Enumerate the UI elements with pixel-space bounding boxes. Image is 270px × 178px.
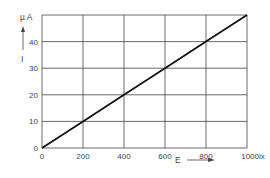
y-tick-label: 40 xyxy=(29,38,38,47)
data-line xyxy=(42,15,247,148)
chart: 02004006008001000lx 010203040 µ A I E xyxy=(0,0,270,178)
y-tick-label: 0 xyxy=(34,144,39,153)
x-tick-label: 200 xyxy=(76,152,90,161)
y-tick-label: 10 xyxy=(29,117,38,126)
y-unit-label: µ A xyxy=(20,12,33,22)
x-axis-label: E xyxy=(175,155,181,165)
x-tick-labels: 02004006008001000lx xyxy=(40,152,265,161)
y-tick-label: 20 xyxy=(29,91,38,100)
x-tick-label: 0 xyxy=(40,152,45,161)
x-tick-label: 400 xyxy=(117,152,131,161)
x-tick-label: 1000lx xyxy=(241,152,265,161)
y-axis-arrow-icon xyxy=(21,26,25,50)
y-tick-labels: 010203040 xyxy=(29,38,38,153)
y-tick-label: 30 xyxy=(29,64,38,73)
y-axis-label: I xyxy=(21,54,23,64)
x-tick-label: 600 xyxy=(158,152,172,161)
